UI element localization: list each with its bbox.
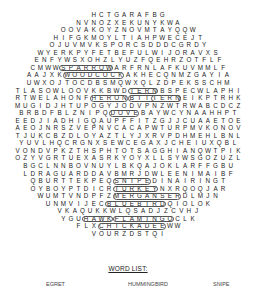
grid-letter[interactable]: Z xyxy=(120,229,128,239)
word-list-title: WORD LIST: xyxy=(0,265,256,272)
word-list-item: EGRET xyxy=(46,281,65,287)
grid-letter[interactable]: U xyxy=(105,229,113,239)
grid-letter[interactable]: V xyxy=(90,229,98,239)
grid-letter[interactable]: S xyxy=(136,229,144,239)
grid-letter[interactable]: Q xyxy=(151,229,159,239)
word-list-item: HUMMINGBIRD xyxy=(128,281,168,287)
grid-letter[interactable]: I xyxy=(158,229,166,239)
grid-letter[interactable]: O xyxy=(98,229,106,239)
grid-letter[interactable]: T xyxy=(143,229,151,239)
word-list-item: SNIPE xyxy=(213,281,230,287)
grid-letter[interactable]: R xyxy=(113,229,121,239)
grid-row: VOURZDSTQI xyxy=(0,229,256,239)
word-search-grid[interactable]: HCTGARAFBGNVNOZXEKUNYKWAOOVAKOYZNOVMTAYQ… xyxy=(0,0,256,250)
grid-letter[interactable]: D xyxy=(128,229,136,239)
